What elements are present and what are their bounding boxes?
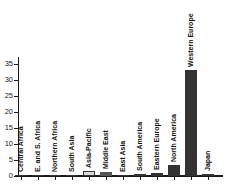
x-tick-mark (21, 177, 22, 180)
category-label: Japan (204, 151, 212, 171)
category-label: Eastern Europe (153, 119, 161, 171)
category-label: Middle East (102, 130, 110, 169)
category-label: Northern Africa (51, 121, 59, 172)
category-label: East Asia (119, 141, 127, 172)
bar (185, 70, 197, 176)
category-label: Western Europe (187, 14, 195, 68)
bar (100, 172, 112, 176)
bar (168, 165, 180, 176)
bar (49, 175, 61, 176)
y-tick-label: 25 (0, 92, 13, 100)
bar (117, 175, 129, 176)
bar (15, 175, 27, 176)
y-tick-mark (14, 80, 18, 81)
x-tick-mark (174, 177, 175, 180)
y-tick-label: 30 (0, 76, 13, 84)
category-label: E. and S. Africa (34, 121, 42, 172)
x-tick-mark (55, 177, 56, 180)
bar-chart: 05101520253035Central AfricaE. and S. Af… (0, 0, 227, 188)
y-tick-label: 5 (0, 156, 13, 164)
category-label: North America (170, 114, 178, 162)
y-tick-label: 35 (0, 60, 13, 68)
bar (151, 173, 163, 176)
x-tick-mark (106, 177, 107, 180)
x-tick-mark (208, 177, 209, 180)
x-tick-mark (89, 177, 90, 180)
plot-area: 05101520253035Central AfricaE. and S. Af… (0, 0, 227, 188)
category-label: Central Africa (17, 126, 25, 172)
y-tick-label: 20 (0, 108, 13, 116)
y-tick-label: 0 (0, 172, 13, 180)
y-tick-label: 15 (0, 124, 13, 132)
y-tick-mark (14, 176, 18, 177)
x-tick-mark (191, 177, 192, 180)
bar (83, 171, 95, 176)
y-tick-mark (14, 112, 18, 113)
category-label: Asia-Pacific (85, 128, 93, 168)
y-tick-mark (14, 96, 18, 97)
bar (202, 174, 214, 176)
x-tick-mark (38, 177, 39, 180)
category-label: South America (136, 122, 144, 171)
y-tick-label: 10 (0, 140, 13, 148)
x-tick-mark (72, 177, 73, 180)
y-tick-mark (14, 64, 18, 65)
bar (66, 175, 78, 176)
bar (134, 174, 146, 176)
x-tick-mark (157, 177, 158, 180)
bar (32, 175, 44, 176)
x-tick-mark (140, 177, 141, 180)
x-tick-mark (123, 177, 124, 180)
category-label: South Asia (68, 136, 76, 172)
